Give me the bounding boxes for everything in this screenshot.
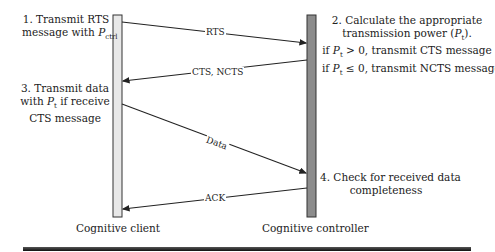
step3-text: 3. Transmit data with Pt if receive CTS … <box>20 82 110 125</box>
controller-label: Cognitive controller <box>262 222 362 235</box>
step1-text: 1. Transmit RTS message with Pctrl <box>22 13 110 43</box>
step2-text: 2. Calculate the appropriate transmissio… <box>322 14 492 79</box>
client-lifeline-bar <box>113 15 122 217</box>
rts-label: RTS <box>205 27 226 37</box>
controller-lifeline-bar <box>307 15 316 217</box>
client-label: Cognitive client <box>76 222 156 235</box>
cts-ncts-label: CTS, NCTS <box>191 67 244 77</box>
ack-label: ACK <box>204 193 226 203</box>
bottom-rule <box>23 247 471 251</box>
step4-text: 4. Check for received data completeness <box>320 171 452 196</box>
sequence-diagram: RTS CTS, NCTS Data ACK 1. Transmit RTS m… <box>0 0 495 252</box>
